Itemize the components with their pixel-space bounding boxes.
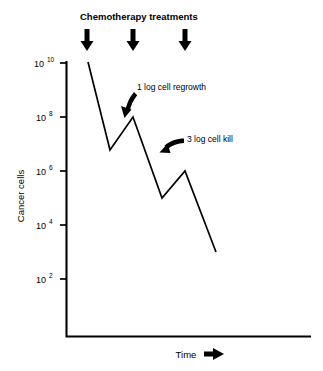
annotation-kill-label: 3 log cell kill bbox=[187, 134, 233, 144]
y-tick-mantissa: 10 bbox=[36, 221, 46, 231]
y-tick-mantissa: 10 bbox=[36, 113, 46, 123]
y-axis-title: Cancer cells bbox=[15, 170, 26, 223]
y-tick-exponent: 2 bbox=[49, 272, 53, 279]
chemotherapy-log-kill-figure: Chemotherapy treatments 10 10 bbox=[0, 0, 323, 371]
x-axis-title: Time bbox=[176, 349, 197, 360]
annotation-regrowth-label: 1 log cell regrowth bbox=[137, 82, 206, 92]
y-tick-exponent: 4 bbox=[49, 218, 53, 225]
y-tick-mantissa: 10 bbox=[36, 167, 46, 177]
y-tick-exponent: 10 bbox=[47, 56, 55, 63]
chart-title: Chemotherapy treatments bbox=[80, 11, 198, 22]
y-tick-exponent: 8 bbox=[49, 110, 53, 117]
chart-canvas: Chemotherapy treatments 10 10 bbox=[0, 0, 323, 371]
y-tick-mantissa: 10 bbox=[34, 59, 44, 69]
y-tick-exponent: 6 bbox=[49, 164, 53, 171]
y-tick-mantissa: 10 bbox=[36, 275, 46, 285]
